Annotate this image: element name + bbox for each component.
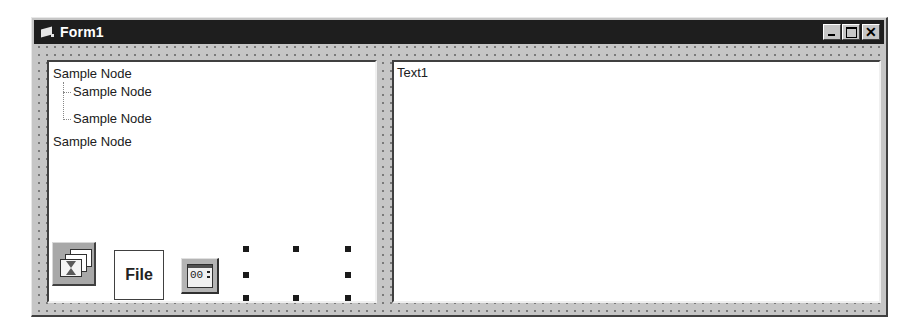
text-box[interactable]: Text1 <box>392 60 881 303</box>
tree-connector <box>63 92 71 93</box>
form-icon[interactable] <box>40 26 56 38</box>
minimize-button[interactable] <box>823 24 841 40</box>
tree-node[interactable]: Sample Node <box>73 84 152 99</box>
tree-view[interactable]: Sample Node Sample Node Sample Node Samp… <box>47 60 377 303</box>
tree-node[interactable]: Sample Node <box>73 111 152 126</box>
close-icon: ✕ <box>863 24 879 40</box>
tree-connector <box>63 82 64 120</box>
resize-handle[interactable] <box>243 272 249 278</box>
resize-handle[interactable] <box>345 295 351 301</box>
caption-buttons: ✕ <box>822 24 880 40</box>
resize-handle[interactable] <box>293 246 299 252</box>
tree-connector <box>63 119 71 120</box>
window-title: Form1 <box>60 24 104 40</box>
resize-handle[interactable] <box>345 272 351 278</box>
title-bar[interactable]: Form1 ✕ <box>34 20 884 44</box>
updown-icon: 00 <box>187 264 213 288</box>
close-button[interactable]: ✕ <box>862 24 880 40</box>
resize-handle[interactable] <box>243 246 249 252</box>
imagelist-control[interactable] <box>52 242 96 286</box>
resize-handle[interactable] <box>243 295 249 301</box>
resize-handle[interactable] <box>293 295 299 301</box>
tree-node[interactable]: Sample Node <box>53 66 132 81</box>
updown-control[interactable]: 00 <box>181 258 219 294</box>
maximize-button[interactable] <box>842 24 860 40</box>
form-window: Form1 ✕ Sample Node Sample Node Sample N… <box>31 17 888 317</box>
file-button[interactable]: File <box>114 250 164 300</box>
resize-handle[interactable] <box>345 246 351 252</box>
tree-node[interactable]: Sample Node <box>53 134 132 149</box>
text-box-value[interactable]: Text1 <box>397 65 428 80</box>
